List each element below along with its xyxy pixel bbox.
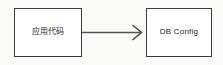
diagram-node-db-config[interactable]: DB Config [146, 8, 212, 57]
diagram-canvas: 应用代码 DB Config [0, 0, 223, 65]
diagram-node-app-code[interactable]: 应用代码 [14, 8, 82, 57]
diagram-node-app-code-label: 应用代码 [32, 28, 65, 37]
diagram-node-db-config-label: DB Config [160, 28, 198, 37]
arrowhead-icon [133, 26, 142, 40]
